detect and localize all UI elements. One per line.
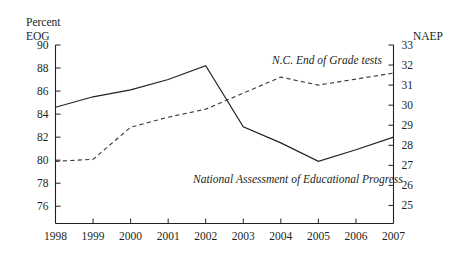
left-tick-label: 86 xyxy=(37,85,49,97)
series-label-naep: National Assessment of Educational Progr… xyxy=(192,173,403,186)
series-path-naep xyxy=(56,73,394,161)
x-axis-ticks xyxy=(93,219,356,224)
left-tick-label: 90 xyxy=(37,39,49,51)
x-tick-label: 2000 xyxy=(119,230,142,242)
right-tick-label: 33 xyxy=(402,39,414,51)
left-tick-label: 88 xyxy=(37,62,49,74)
x-tick-label: 2003 xyxy=(232,230,255,242)
x-tick-label: 2007 xyxy=(382,230,405,242)
right-tick-label: 27 xyxy=(402,159,414,171)
left-tick-label: 78 xyxy=(37,177,49,189)
line-chart: Percent EOG NAEP 7678808284868890 252627… xyxy=(0,0,452,257)
series-label-eog: N.C. End of Grade tests xyxy=(271,54,382,67)
right-tick-label: 30 xyxy=(402,99,414,111)
left-axis-ticks xyxy=(56,45,61,206)
right-tick-label: 32 xyxy=(402,59,414,71)
x-tick-label: 1998 xyxy=(44,230,67,242)
x-tick-label: 2004 xyxy=(269,230,292,242)
series-path-eog xyxy=(56,66,394,162)
right-tick-label: 26 xyxy=(402,179,414,191)
left-axis-title-line1: Percent xyxy=(26,16,61,28)
x-tick-label: 2005 xyxy=(307,230,330,242)
right-tick-label: 25 xyxy=(402,199,414,211)
right-tick-label: 31 xyxy=(402,79,414,91)
right-axis-tick-labels: 252627282930313233 xyxy=(402,39,414,211)
right-tick-label: 29 xyxy=(402,119,414,131)
x-tick-label: 1999 xyxy=(82,230,105,242)
x-tick-label: 2006 xyxy=(344,230,367,242)
left-tick-label: 84 xyxy=(37,108,49,120)
x-tick-label: 2002 xyxy=(194,230,217,242)
left-tick-label: 80 xyxy=(37,154,49,166)
left-tick-label: 76 xyxy=(37,200,49,212)
left-tick-label: 82 xyxy=(37,131,49,143)
series-lines xyxy=(56,66,394,162)
x-axis-tick-labels: 1998199920002001200220032004200520062007 xyxy=(44,230,405,242)
x-tick-label: 2001 xyxy=(157,230,180,242)
chart-container: Percent EOG NAEP 7678808284868890 252627… xyxy=(0,0,452,257)
right-tick-label: 28 xyxy=(402,139,414,151)
left-axis-tick-labels: 7678808284868890 xyxy=(37,39,49,212)
right-axis-title: NAEP xyxy=(413,30,443,42)
